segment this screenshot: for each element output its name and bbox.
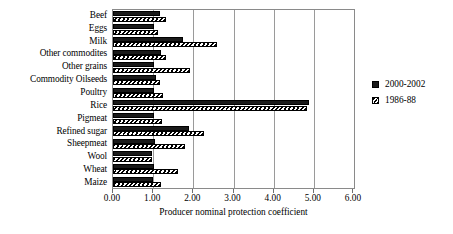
bar-other-commodites-1986-88 xyxy=(113,55,166,60)
bar-rice-2000-2002 xyxy=(113,100,309,105)
legend-entry-2000-2002: 2000-2002 xyxy=(372,80,452,89)
legend-label-1986-88: 1986-88 xyxy=(385,96,416,105)
category-label-sheepmeat: Sheepmeat xyxy=(0,138,110,151)
bar-sheepmeat-1986-88 xyxy=(113,144,185,149)
category-label-commodity-oilseeds: Commodity Oilseeds xyxy=(0,73,110,86)
bar-wheat-1986-88 xyxy=(113,169,178,174)
bar-refined-sugar-2000-2002 xyxy=(113,126,189,131)
category-label-other-grains: Other grains xyxy=(0,60,110,73)
x-tick-label-5.00: 5.00 xyxy=(305,194,321,203)
bar-group-sheepmeat xyxy=(113,137,354,150)
category-label-poultry: Poultry xyxy=(0,86,110,99)
bar-wool-1986-88 xyxy=(113,157,152,162)
plot-area xyxy=(112,9,355,189)
bar-group-eggs xyxy=(113,23,354,36)
category-label-maize: Maize xyxy=(0,176,110,189)
category-label-beef: Beef xyxy=(0,9,110,22)
bar-refined-sugar-1986-88 xyxy=(113,131,204,136)
solid-square-icon xyxy=(372,81,379,88)
bar-group-maize xyxy=(113,175,354,188)
bar-maize-2000-2002 xyxy=(113,177,153,182)
bar-poultry-1986-88 xyxy=(113,93,163,98)
bar-group-other-grains xyxy=(113,61,354,74)
bar-group-rice xyxy=(113,99,354,112)
bar-series-container xyxy=(113,10,354,188)
bar-other-grains-2000-2002 xyxy=(113,62,154,67)
bar-wheat-2000-2002 xyxy=(113,164,154,169)
category-label-wheat: Wheat xyxy=(0,163,110,176)
category-label-milk: Milk xyxy=(0,35,110,48)
bar-group-refined-sugar xyxy=(113,124,354,137)
x-axis-title: Producer nominal protection coefficient xyxy=(112,208,355,217)
hatched-square-icon xyxy=(372,97,379,104)
x-axis: 0.001.002.003.004.005.006.00 xyxy=(112,189,355,193)
x-tick-label-1.00: 1.00 xyxy=(144,194,160,203)
bar-group-other-commodites xyxy=(113,48,354,61)
bar-beef-2000-2002 xyxy=(113,11,160,16)
bar-rice-1986-88 xyxy=(113,106,307,111)
category-label-wool: Wool xyxy=(0,150,110,163)
bar-beef-1986-88 xyxy=(113,17,166,22)
bar-eggs-2000-2002 xyxy=(113,24,154,29)
x-tick-label-6.00: 6.00 xyxy=(345,194,361,203)
category-label-rice: Rice xyxy=(0,99,110,112)
bar-other-commodites-2000-2002 xyxy=(113,50,161,55)
bar-milk-1986-88 xyxy=(113,42,217,47)
legend-entry-1986-88: 1986-88 xyxy=(372,96,452,105)
bar-group-poultry xyxy=(113,86,354,99)
bar-eggs-1986-88 xyxy=(113,30,158,35)
bar-group-wheat xyxy=(113,163,354,176)
x-tick-label-3.00: 3.00 xyxy=(224,194,240,203)
bar-maize-1986-88 xyxy=(113,182,161,187)
category-label-eggs: Eggs xyxy=(0,22,110,35)
bar-group-commodity-oilseeds xyxy=(113,74,354,87)
legend-label-2000-2002: 2000-2002 xyxy=(385,80,425,89)
bar-group-milk xyxy=(113,35,354,48)
bar-other-grains-1986-88 xyxy=(113,68,190,73)
bar-group-beef xyxy=(113,10,354,23)
category-label-refined-sugar: Refined sugar xyxy=(0,125,110,138)
x-tick-label-2.00: 2.00 xyxy=(184,194,200,203)
bar-pigmeat-1986-88 xyxy=(113,119,162,124)
bar-pigmeat-2000-2002 xyxy=(113,113,154,118)
category-axis: Beef Eggs Milk Other commodites Other gr… xyxy=(0,9,110,189)
bar-wool-2000-2002 xyxy=(113,151,152,156)
x-tick-label-0.00: 0.00 xyxy=(104,194,120,203)
bar-commodity-oilseeds-2000-2002 xyxy=(113,75,156,80)
category-label-other-commodites: Other commodites xyxy=(0,48,110,61)
bar-group-wool xyxy=(113,150,354,163)
bar-chart: Beef Eggs Milk Other commodites Other gr… xyxy=(0,0,453,234)
legend: 2000-2002 1986-88 xyxy=(372,80,452,113)
bar-group-pigmeat xyxy=(113,112,354,125)
x-tick-label-4.00: 4.00 xyxy=(265,194,281,203)
bar-milk-2000-2002 xyxy=(113,37,183,42)
bar-commodity-oilseeds-1986-88 xyxy=(113,80,160,85)
bar-sheepmeat-2000-2002 xyxy=(113,139,155,144)
bar-poultry-2000-2002 xyxy=(113,88,154,93)
category-label-pigmeat: Pigmeat xyxy=(0,112,110,125)
